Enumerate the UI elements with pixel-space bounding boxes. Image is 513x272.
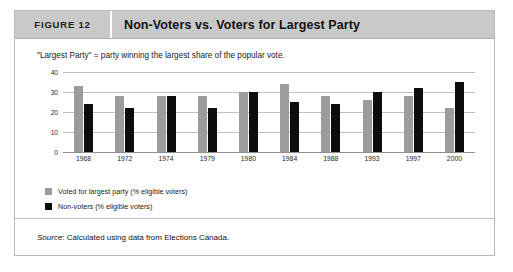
bar-group	[63, 72, 104, 152]
source-text: : Calculated using data from Elections C…	[62, 233, 229, 242]
bar-voted	[115, 96, 124, 152]
legend-label-voted: Voted for largest party (% eligible vote…	[58, 187, 187, 196]
bar-voted	[239, 92, 248, 152]
page-title: Non-Voters vs. Voters for Largest Party	[124, 18, 360, 32]
y-axis-tick-label: 0	[54, 149, 58, 156]
x-axis-tick-label: 1972	[104, 155, 145, 162]
bar-nonvoters	[125, 108, 134, 152]
x-axis: 1968197219741979198019841988199319972000	[63, 155, 475, 162]
y-axis-tick-label: 10	[51, 129, 58, 136]
figure-footer: Source: Calculated using data from Elect…	[15, 218, 494, 255]
bar-group	[351, 72, 392, 152]
x-axis-tick-label: 1997	[393, 155, 434, 162]
definition-note: "Largest Party" = party winning the larg…	[37, 51, 285, 60]
bar-series-container	[63, 72, 475, 152]
bar-nonvoters	[249, 92, 258, 152]
bar-nonvoters	[290, 102, 299, 152]
x-axis-tick-label: 1993	[351, 155, 392, 162]
x-axis-tick-label: 1984	[269, 155, 310, 162]
bar-nonvoters	[414, 88, 423, 152]
bar-voted	[445, 108, 454, 152]
bar-voted	[280, 84, 289, 152]
bar-voted	[404, 96, 413, 152]
bar-group	[104, 72, 145, 152]
figure-number-label: FIGURE 12	[34, 19, 90, 30]
figure-number-cell: FIGURE 12	[15, 11, 112, 38]
bar-nonvoters	[167, 96, 176, 152]
bar-group	[310, 72, 351, 152]
y-axis-tick-label: 20	[51, 109, 58, 116]
x-axis-tick-label: 1979	[187, 155, 228, 162]
figure-container: FIGURE 12 Non-Voters vs. Voters for Larg…	[14, 10, 495, 256]
x-axis-tick-label: 2000	[434, 155, 475, 162]
y-axis-tick-label: 40	[51, 69, 58, 76]
legend-item-nonvoters: Non-voters (% eligible voters)	[45, 202, 187, 211]
bar-voted	[321, 96, 330, 152]
figure-header: FIGURE 12 Non-Voters vs. Voters for Larg…	[15, 11, 494, 39]
figure-body: "Largest Party" = party winning the larg…	[15, 39, 494, 219]
bar-nonvoters	[455, 82, 464, 152]
x-axis-tick-label: 1988	[310, 155, 351, 162]
figure-title-cell: Non-Voters vs. Voters for Largest Party	[112, 11, 494, 38]
bar-voted	[157, 96, 166, 152]
bar-group	[228, 72, 269, 152]
legend-swatch-icon-voted	[45, 188, 52, 195]
legend-label-nonvoters: Non-voters (% eligible voters)	[58, 202, 152, 211]
x-axis-tick-label: 1968	[63, 155, 104, 162]
bar-group	[393, 72, 434, 152]
bar-voted	[74, 86, 83, 152]
bar-group	[145, 72, 186, 152]
bar-group	[269, 72, 310, 152]
bar-nonvoters	[373, 92, 382, 152]
x-axis-tick-label: 1980	[228, 155, 269, 162]
x-axis-tick-label: 1974	[145, 155, 186, 162]
bar-chart: 403020100 196819721974197919801984198819…	[37, 72, 475, 168]
y-axis: 403020100	[37, 72, 61, 152]
bar-nonvoters	[84, 104, 93, 152]
plot-area	[63, 72, 475, 152]
gridline	[63, 152, 475, 153]
bar-group	[187, 72, 228, 152]
legend-swatch-icon-nonvoters	[45, 203, 52, 210]
bar-voted	[363, 100, 372, 152]
bar-group	[434, 72, 475, 152]
bar-nonvoters	[208, 108, 217, 152]
bar-nonvoters	[331, 104, 340, 152]
y-axis-tick-label: 30	[51, 89, 58, 96]
legend-item-voted: Voted for largest party (% eligible vote…	[45, 187, 187, 196]
bar-voted	[198, 96, 207, 152]
chart-legend: Voted for largest party (% eligible vote…	[45, 187, 187, 217]
source-label: Source	[37, 233, 62, 242]
